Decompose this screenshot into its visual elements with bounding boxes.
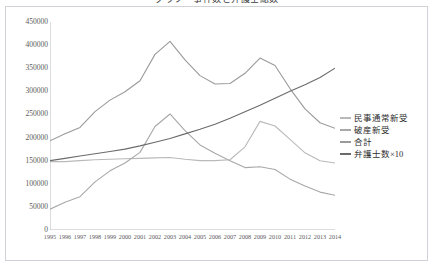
x-tick-label: 1995 — [44, 232, 56, 241]
plot-area — [50, 22, 335, 230]
legend-item-label: 民事通常新受 — [354, 113, 408, 124]
x-tick-label: 2003 — [164, 232, 176, 241]
y-tick-label: 400000 — [2, 41, 48, 49]
y-tick-label: 450000 — [2, 18, 48, 26]
legend-item-4[interactable]: 弁護士数×10 — [340, 148, 428, 160]
x-tick-label: 1996 — [59, 232, 71, 241]
series-line-1 — [50, 121, 335, 163]
legend-line-swatch — [340, 153, 351, 155]
y-tick-label: 350000 — [2, 64, 48, 72]
x-tick-label: 2011 — [284, 232, 296, 241]
y-tick-label: 200000 — [2, 134, 48, 142]
legend-line-swatch — [340, 129, 351, 131]
series-line-2 — [50, 114, 335, 209]
x-tick-label: 2007 — [224, 232, 236, 241]
chart-figure: グラフ 事件数と弁護士総数 05000010000015000020000025… — [0, 0, 434, 267]
x-tick-label: 2013 — [314, 232, 326, 241]
x-tick-label: 2002 — [149, 232, 161, 241]
legend-line-swatch — [340, 117, 351, 119]
plot-svg — [50, 22, 335, 230]
legend-item-label: 合計 — [354, 137, 372, 148]
y-tick-label: 100000 — [2, 180, 48, 188]
x-tick-label: 2001 — [134, 232, 146, 241]
chart-legend: 民事通常新受破産新受合計弁護士数×10 — [340, 112, 428, 160]
legend-item-3[interactable]: 合計 — [340, 136, 428, 148]
x-tick-label: 2009 — [254, 232, 266, 241]
legend-item-label: 破産新受 — [354, 125, 390, 136]
y-axis-tick-labels: 0500001000001500002000002500003000003500… — [0, 22, 48, 230]
x-tick-label: 2005 — [194, 232, 206, 241]
x-tick-label: 2008 — [239, 232, 251, 241]
y-tick-label: 250000 — [2, 110, 48, 118]
x-tick-label: 2012 — [299, 232, 311, 241]
y-tick-label: 50000 — [2, 203, 48, 211]
legend-line-swatch — [340, 141, 351, 143]
x-tick-label: 2004 — [179, 232, 191, 241]
y-tick-label: 150000 — [2, 157, 48, 165]
axis-spines — [50, 22, 335, 230]
legend-item-label: 弁護士数×10 — [354, 149, 403, 160]
x-axis-tick-labels: 1995199619971998199920002001200220032004… — [50, 232, 335, 244]
legend-item-1[interactable]: 民事通常新受 — [340, 112, 428, 124]
y-tick-label: 300000 — [2, 87, 48, 95]
x-tick-label: 2000 — [119, 232, 131, 241]
y-tick-label: 0 — [2, 226, 48, 234]
x-tick-label: 1999 — [104, 232, 116, 241]
series-line-3 — [50, 41, 335, 140]
x-tick-label: 2010 — [269, 232, 281, 241]
x-tick-label: 2006 — [209, 232, 221, 241]
x-tick-label: 1997 — [74, 232, 86, 241]
legend-item-2[interactable]: 破産新受 — [340, 124, 428, 136]
x-tick-label: 2014 — [329, 232, 341, 241]
x-tick-label: 1998 — [89, 232, 101, 241]
chart-title: グラフ 事件数と弁護士総数 — [0, 0, 434, 4]
